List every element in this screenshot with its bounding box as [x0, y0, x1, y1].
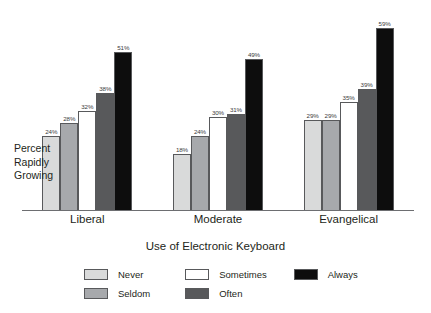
bar-liberal-always: 51%: [114, 6, 132, 210]
bar-value-label: 49%: [248, 51, 260, 58]
x-axis-line: [22, 210, 414, 211]
legend-label: Often: [219, 288, 242, 299]
legend-label: Never: [118, 269, 143, 280]
bar-rect: [191, 136, 209, 210]
bar-value-label: 28%: [63, 115, 75, 122]
bar-evangelical-always: 59%: [376, 6, 394, 210]
bar-moderate-sometimes: 30%: [209, 6, 227, 210]
bar-group-evangelical: 29% 29% 35% 39% 59%: [283, 6, 414, 210]
bar-rect: [322, 120, 340, 210]
legend-label: Seldom: [118, 288, 150, 299]
legend-item-always: Always: [294, 269, 384, 280]
bar-moderate-often: 31%: [227, 6, 245, 210]
bar-rect: [209, 117, 227, 210]
bar-evangelical-seldom: 29%: [322, 6, 340, 210]
bar-value-label: 32%: [81, 103, 93, 110]
bar-rect: [114, 52, 132, 210]
legend-item-seldom: Seldom: [84, 288, 185, 299]
bar-evangelical-sometimes: 35%: [340, 6, 358, 210]
bar-value-label: 51%: [117, 44, 129, 51]
bar-liberal-often: 38%: [96, 6, 114, 210]
bar-chart: 24% 28% 32% 38% 51%: [0, 0, 431, 313]
legend-label: Always: [328, 269, 358, 280]
bar-value-label: 18%: [176, 146, 188, 153]
bar-value-label: 30%: [212, 109, 224, 116]
x-tick-label-evangelical: Evangelical: [283, 213, 414, 225]
legend: Never Sometimes Always Seldom Often: [84, 269, 384, 307]
bar-evangelical-often: 39%: [358, 6, 376, 210]
y-axis-label: Percent Rapidly Growing: [14, 142, 86, 183]
bar-value-label: 39%: [361, 81, 373, 88]
x-tick-label-moderate: Moderate: [153, 213, 284, 225]
bar-moderate-never: 18%: [173, 6, 191, 210]
bar-value-label: 24%: [45, 128, 57, 135]
bar-value-label: 29%: [307, 112, 319, 119]
bar-rect: [173, 154, 191, 210]
legend-swatch-sometimes-icon: [185, 269, 209, 280]
legend-row-1: Never Sometimes Always: [84, 269, 384, 288]
bar-rect: [358, 89, 376, 210]
bar-rect: [376, 28, 394, 210]
legend-item-never: Never: [84, 269, 185, 280]
bar-group-moderate: 18% 24% 30% 31% 49%: [153, 6, 284, 210]
bar-value-label: 31%: [230, 106, 242, 113]
x-tick-label-liberal: Liberal: [22, 213, 153, 225]
legend-swatch-never-icon: [84, 269, 108, 280]
bar-value-label: 59%: [379, 20, 391, 27]
legend-item-often: Often: [185, 288, 293, 299]
bar-evangelical-never: 29%: [304, 6, 322, 210]
y-axis-label-line-2: Rapidly: [14, 156, 86, 170]
bar-rect: [304, 120, 322, 210]
legend-row-2: Seldom Often: [84, 288, 384, 307]
legend-label: Sometimes: [219, 269, 267, 280]
bar-rect: [227, 114, 245, 210]
legend-item-sometimes: Sometimes: [185, 269, 293, 280]
legend-swatch-often-icon: [185, 288, 209, 299]
legend-swatch-always-icon: [294, 269, 318, 280]
bar-value-label: 35%: [343, 94, 355, 101]
x-axis-tick-labels: Liberal Moderate Evangelical: [22, 213, 414, 225]
bar-moderate-always: 49%: [245, 6, 263, 210]
bar-value-label: 38%: [99, 85, 111, 92]
y-axis-label-line-1: Percent: [14, 142, 86, 156]
legend-swatch-seldom-icon: [84, 288, 108, 299]
bar-rect: [96, 93, 114, 210]
x-axis-title: Use of Electronic Keyboard: [0, 240, 431, 252]
bar-rect: [340, 102, 358, 210]
bar-moderate-seldom: 24%: [191, 6, 209, 210]
bar-rect: [245, 59, 263, 210]
y-axis-label-line-3: Growing: [14, 169, 86, 183]
bar-value-label: 24%: [194, 128, 206, 135]
bar-value-label: 29%: [325, 112, 337, 119]
